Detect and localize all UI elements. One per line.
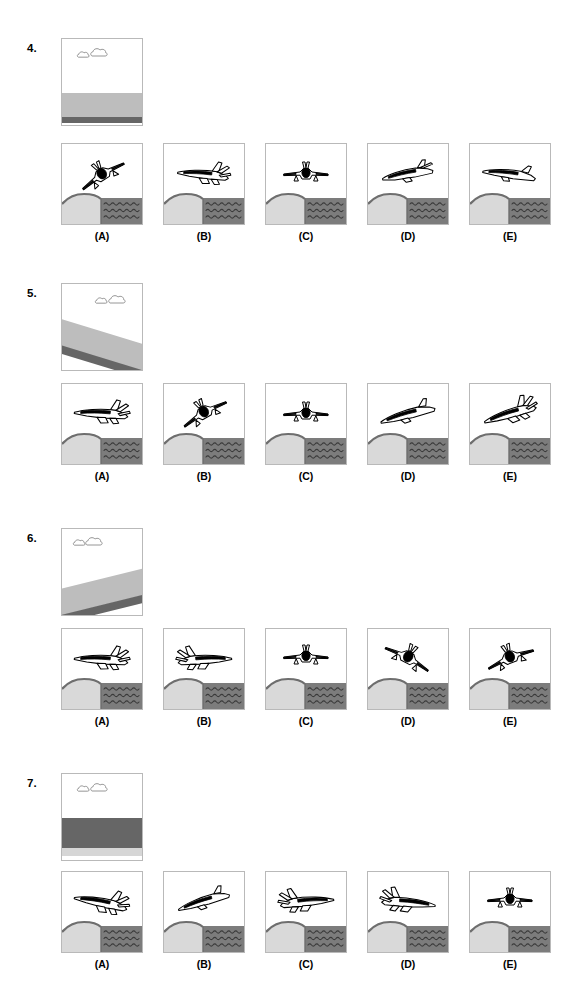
option-label: (B) — [163, 958, 245, 970]
horizon-scene — [62, 529, 142, 615]
band-0 — [62, 93, 142, 117]
option-scene — [368, 384, 448, 464]
aircraft — [276, 883, 335, 915]
aircraft — [483, 636, 536, 674]
option-d[interactable]: (D) — [367, 871, 449, 970]
water-region — [509, 198, 550, 224]
option-scene — [62, 629, 142, 709]
option-a[interactable]: (A) — [61, 628, 143, 727]
prompt-panel — [61, 283, 143, 371]
horizon-bands — [62, 93, 142, 123]
option-label: (E) — [469, 230, 551, 242]
option-image[interactable] — [61, 143, 143, 225]
aircraft — [379, 886, 435, 913]
option-c[interactable]: (C) — [265, 628, 347, 727]
water-region — [509, 683, 550, 709]
land-region — [62, 194, 101, 224]
option-label: (B) — [163, 470, 245, 482]
aircraft — [284, 402, 328, 421]
aircraft — [381, 159, 435, 186]
horizon-scene — [62, 39, 142, 125]
option-e[interactable]: (E) — [469, 143, 551, 242]
land-region — [368, 679, 407, 709]
option-scene — [266, 629, 346, 709]
option-label: (E) — [469, 958, 551, 970]
option-image[interactable] — [61, 628, 143, 710]
option-label: (B) — [163, 230, 245, 242]
water-region — [101, 683, 142, 709]
option-image[interactable] — [163, 871, 245, 953]
option-image[interactable] — [367, 628, 449, 710]
option-image[interactable] — [469, 383, 551, 465]
land-region — [164, 194, 203, 224]
option-c[interactable]: (C) — [265, 383, 347, 482]
option-image[interactable] — [163, 383, 245, 465]
option-scene — [164, 629, 244, 709]
water-region — [305, 198, 346, 224]
option-scene — [164, 384, 244, 464]
question-number: 4. — [27, 42, 37, 54]
option-e[interactable]: (E) — [469, 871, 551, 970]
aircraft — [74, 396, 132, 426]
aircraft — [175, 884, 231, 915]
option-scene — [368, 144, 448, 224]
option-scene — [266, 384, 346, 464]
option-b[interactable]: (B) — [163, 383, 245, 482]
land-region — [266, 194, 305, 224]
option-b[interactable]: (B) — [163, 143, 245, 242]
option-scene — [470, 629, 550, 709]
land-region — [470, 922, 509, 952]
option-a[interactable]: (A) — [61, 383, 143, 482]
water-region — [101, 926, 142, 952]
option-d[interactable]: (D) — [367, 143, 449, 242]
option-image[interactable] — [265, 871, 347, 953]
option-image[interactable] — [469, 871, 551, 953]
option-image[interactable] — [367, 143, 449, 225]
land-region — [368, 194, 407, 224]
option-a[interactable]: (A) — [61, 143, 143, 242]
water-region — [203, 683, 244, 709]
option-label: (A) — [61, 715, 143, 727]
option-scene — [470, 384, 550, 464]
option-image[interactable] — [163, 143, 245, 225]
option-image[interactable] — [367, 383, 449, 465]
option-scene — [164, 872, 244, 952]
option-label: (E) — [469, 715, 551, 727]
option-image[interactable] — [265, 383, 347, 465]
option-image[interactable] — [469, 628, 551, 710]
option-c[interactable]: (C) — [265, 871, 347, 970]
option-b[interactable]: (B) — [163, 871, 245, 970]
option-scene — [368, 872, 448, 952]
water-region — [101, 438, 142, 464]
option-label: (A) — [61, 958, 143, 970]
option-label: (C) — [265, 958, 347, 970]
option-image[interactable] — [61, 871, 143, 953]
land-region — [470, 434, 509, 464]
option-e[interactable]: (E) — [469, 628, 551, 727]
land-region — [368, 922, 407, 952]
water-region — [203, 926, 244, 952]
aircraft — [74, 642, 132, 672]
aircraft — [177, 389, 230, 432]
land-region — [164, 922, 203, 952]
water-region — [305, 438, 346, 464]
option-a[interactable]: (A) — [61, 871, 143, 970]
horizon-scene — [62, 284, 142, 370]
option-b[interactable]: (B) — [163, 628, 245, 727]
option-scene — [266, 144, 346, 224]
option-image[interactable] — [469, 143, 551, 225]
option-image[interactable] — [163, 628, 245, 710]
option-label: (A) — [61, 470, 143, 482]
water-region — [305, 926, 346, 952]
option-image[interactable] — [367, 871, 449, 953]
prompt-panel — [61, 773, 143, 861]
option-image[interactable] — [265, 628, 347, 710]
option-image[interactable] — [61, 383, 143, 465]
option-e[interactable]: (E) — [469, 383, 551, 482]
land-region — [266, 679, 305, 709]
option-d[interactable]: (D) — [367, 383, 449, 482]
option-c[interactable]: (C) — [265, 143, 347, 242]
option-d[interactable]: (D) — [367, 628, 449, 727]
option-label: (D) — [367, 230, 449, 242]
option-image[interactable] — [265, 143, 347, 225]
